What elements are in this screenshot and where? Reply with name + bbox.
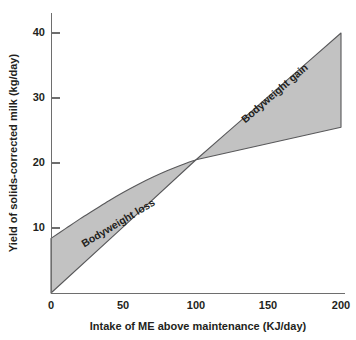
y-tick-label-20: 20 xyxy=(33,156,45,168)
x-tick-label-50: 50 xyxy=(117,299,129,311)
x-tick-label-100: 100 xyxy=(187,299,205,311)
x-tick-label-200: 200 xyxy=(332,299,350,311)
milk-yield-area-chart: 40 30 20 10 0 50 100 150 200 Yield of so… xyxy=(0,0,356,340)
x-tick-label-150: 150 xyxy=(259,299,277,311)
x-axis-title: Intake of ME above maintenance (KJ/day) xyxy=(90,320,307,332)
y-axis-title: Yield of solids-corrected milk (kg/day) xyxy=(7,54,19,253)
y-tick-label-30: 30 xyxy=(33,91,45,103)
y-tick-label-40: 40 xyxy=(33,26,45,38)
x-tick-label-0: 0 xyxy=(48,299,54,311)
y-tick-label-10: 10 xyxy=(33,221,45,233)
chart-figure: 40 30 20 10 0 50 100 150 200 Yield of so… xyxy=(0,0,356,340)
